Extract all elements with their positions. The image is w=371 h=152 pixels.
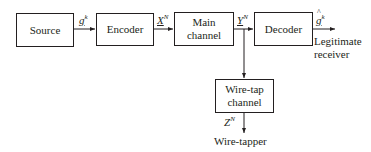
wiretap-label-line1: Wire-tap bbox=[225, 83, 264, 96]
source-label: Source bbox=[30, 24, 61, 37]
signal-encoder-out: XN bbox=[157, 14, 168, 26]
signal-decoder-out: gk bbox=[316, 14, 325, 26]
signal-channel-out: YN bbox=[237, 14, 248, 26]
main-channel-label-line2: channel bbox=[187, 29, 221, 42]
wiretap-label-line2: channel bbox=[227, 96, 261, 109]
main-channel-block: Main channel bbox=[174, 12, 234, 46]
encoder-label: Encoder bbox=[107, 23, 144, 36]
decoder-block: Decoder bbox=[254, 12, 313, 46]
signal-source-out: gk bbox=[79, 14, 88, 26]
wiretapper-label: Wire-tapper bbox=[214, 135, 267, 148]
legitimate-receiver-label: Legitimate receiver bbox=[314, 35, 362, 61]
encoder-block: Encoder bbox=[96, 13, 154, 46]
source-block: Source bbox=[16, 13, 74, 47]
signal-wiretap-out: ZN bbox=[224, 116, 235, 128]
wiretap-channel-block: Wire-tap channel bbox=[215, 79, 274, 113]
main-channel-label-line1: Main bbox=[192, 16, 215, 29]
decoder-label: Decoder bbox=[265, 23, 302, 36]
